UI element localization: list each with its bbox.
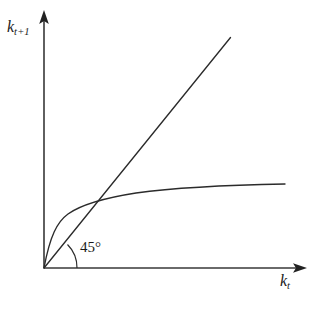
- y-axis-label: kt+1: [7, 19, 30, 38]
- plot-svg: [0, 0, 315, 309]
- x-axis-label-subscript: t: [287, 280, 290, 291]
- forty-five-degree-line: [44, 38, 231, 269]
- figure-canvas: kt+1 kt 45°: [0, 0, 315, 309]
- transition-function-curve: [44, 184, 285, 268]
- x-axis-label: kt: [280, 273, 290, 292]
- angle-arc: [68, 245, 78, 269]
- y-axis-label-subscript: t+1: [14, 26, 30, 37]
- angle-label: 45°: [80, 240, 101, 255]
